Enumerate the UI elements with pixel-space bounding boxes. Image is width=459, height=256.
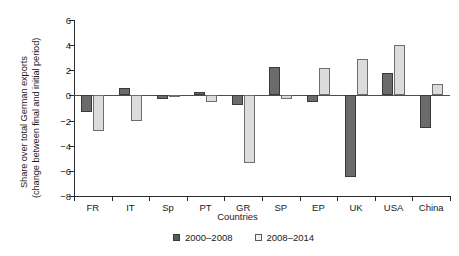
bar-sp-series-0: [157, 95, 168, 99]
y-tick-label: 2: [66, 65, 71, 76]
y-tick-label: −2: [60, 115, 71, 126]
bar-fr-series-1: [93, 95, 104, 130]
x-tick-mark: [262, 196, 263, 201]
bar-ep-series-0: [307, 95, 318, 101]
bar-usa-series-0: [382, 73, 393, 96]
x-tick-mark: [187, 196, 188, 201]
legend-item-0: 2000–2008: [173, 232, 233, 243]
legend-label-0: 2000–2008: [185, 232, 233, 243]
bar-fr-series-0: [81, 95, 92, 111]
y-axis-title-line-2: (change between final and initial period…: [31, 38, 41, 198]
x-axis-title-text: Countries: [217, 211, 258, 222]
bar-pt-series-0: [194, 92, 205, 96]
bar-uk-series-0: [345, 95, 356, 177]
chart-figure: Share over total German exports (change …: [0, 0, 459, 256]
x-tick-mark: [224, 196, 225, 201]
x-tick-mark: [375, 196, 376, 201]
y-tick-label: −8: [60, 191, 71, 202]
bar-gr-series-0: [232, 95, 243, 105]
x-tick-mark: [450, 196, 451, 201]
y-tick-label: 4: [66, 40, 71, 51]
bar-it-series-0: [119, 88, 130, 96]
bar-sp-series-0: [269, 67, 280, 96]
x-tick-mark: [112, 196, 113, 201]
y-axis-title-line-1: Share over total German exports: [19, 56, 29, 188]
bar-sp-series-1: [281, 95, 292, 99]
bar-china-series-1: [432, 84, 443, 95]
bar-sp-series-1: [169, 95, 180, 97]
bar-ep-series-1: [319, 68, 330, 96]
y-axis-title: Share over total German exports (change …: [0, 0, 40, 210]
y-tick-label: 6: [66, 15, 71, 26]
x-tick-mark: [412, 196, 413, 201]
y-tick-label: 0: [66, 90, 71, 101]
bar-uk-series-1: [357, 59, 368, 95]
y-tick-label: −4: [60, 140, 71, 151]
legend-label-1: 2008–2014: [267, 232, 315, 243]
chart-legend: 2000–2008 2008–2014: [14, 232, 459, 243]
x-axis-title: Countries: [0, 211, 459, 222]
x-tick-mark: [149, 196, 150, 201]
bar-it-series-1: [131, 95, 142, 120]
bar-usa-series-1: [394, 45, 405, 95]
plot-area: 6420−2−4−6−8FRITSpPTGRSPEPUKUSAChina: [74, 20, 450, 196]
legend-swatch-dark-icon: [173, 234, 180, 241]
bar-pt-series-1: [206, 95, 217, 101]
legend-item-1: 2008–2014: [255, 232, 315, 243]
x-tick-mark: [300, 196, 301, 201]
legend-swatch-light-icon: [255, 234, 262, 241]
x-tick-mark: [74, 196, 75, 201]
bar-gr-series-1: [244, 95, 255, 163]
bar-china-series-0: [420, 95, 431, 128]
y-tick-label: −6: [60, 165, 71, 176]
x-tick-mark: [337, 196, 338, 201]
